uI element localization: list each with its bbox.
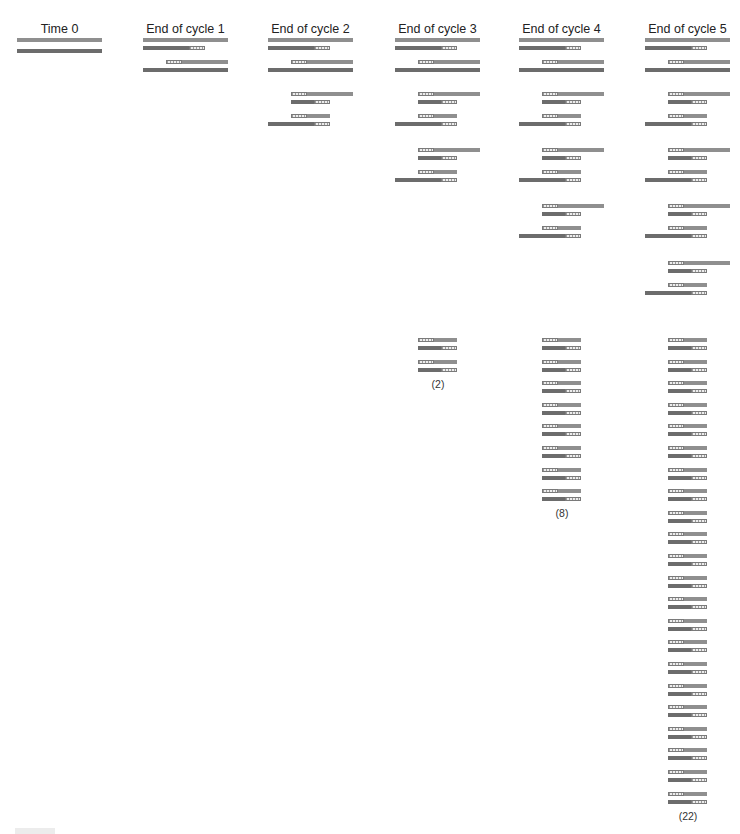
primer-segment	[668, 662, 684, 666]
dna-strand	[668, 170, 707, 174]
primer-segment	[691, 100, 707, 104]
dna-strand	[542, 148, 604, 152]
dna-strand	[291, 100, 330, 104]
dna-strand	[17, 49, 102, 53]
primer-segment	[565, 389, 581, 393]
primer-segment	[691, 519, 707, 523]
dna-strand	[645, 291, 707, 295]
primer-segment	[441, 368, 457, 372]
product-count: (2)	[418, 378, 458, 390]
dna-strand	[542, 114, 581, 118]
dna-strand	[668, 454, 707, 458]
primer-segment	[668, 204, 684, 208]
dna-strand	[542, 424, 581, 428]
primer-segment	[441, 100, 457, 104]
dna-strand	[542, 170, 581, 174]
dna-strand	[668, 446, 707, 450]
primer-segment	[418, 60, 434, 64]
primer-segment	[691, 269, 707, 273]
dna-strand	[542, 204, 604, 208]
primer-segment	[542, 60, 558, 64]
dna-strand	[418, 170, 457, 174]
primer-segment	[691, 212, 707, 216]
primer-segment	[668, 619, 684, 623]
dna-strand	[668, 269, 707, 273]
dna-strand	[395, 68, 480, 72]
primer-segment	[668, 597, 684, 601]
dna-strand	[668, 92, 730, 96]
primer-segment	[565, 178, 581, 182]
dna-strand	[268, 38, 353, 42]
dna-strand	[542, 454, 581, 458]
dna-strand	[668, 519, 707, 523]
dna-strand	[668, 497, 707, 501]
primer-segment	[691, 432, 707, 436]
dna-strand	[418, 368, 457, 372]
dna-strand	[418, 156, 457, 160]
primer-segment	[668, 576, 684, 580]
primer-segment	[668, 489, 684, 493]
primer-segment	[418, 170, 434, 174]
dna-strand	[668, 640, 707, 644]
dna-strand	[668, 584, 707, 588]
dna-strand	[668, 261, 730, 265]
primer-segment	[542, 92, 558, 96]
primer-segment	[565, 46, 581, 50]
primer-segment	[418, 148, 434, 152]
dna-strand	[668, 684, 707, 688]
primer-segment	[668, 381, 684, 385]
dna-strand	[542, 403, 581, 407]
dna-strand	[668, 605, 707, 609]
primer-segment	[291, 60, 307, 64]
primer-segment	[418, 360, 434, 364]
primer-segment	[542, 338, 558, 342]
dna-strand	[542, 432, 581, 436]
primer-segment	[691, 122, 707, 126]
primer-segment	[668, 360, 684, 364]
dna-strand	[418, 360, 457, 364]
primer-segment	[691, 540, 707, 544]
dna-strand	[668, 576, 707, 580]
dna-strand	[668, 389, 707, 393]
dna-strand	[668, 468, 707, 472]
dna-strand	[143, 68, 228, 72]
dna-strand	[668, 156, 707, 160]
page-edge-mark	[15, 828, 55, 834]
dna-strand	[645, 234, 707, 238]
primer-segment	[418, 338, 434, 342]
dna-strand	[542, 381, 581, 385]
primer-segment	[668, 424, 684, 428]
dna-strand	[645, 38, 730, 42]
primer-segment	[565, 476, 581, 480]
dna-strand	[395, 178, 457, 182]
dna-strand	[668, 338, 707, 342]
primer-segment	[691, 454, 707, 458]
primer-segment	[441, 46, 457, 50]
dna-strand	[668, 662, 707, 666]
primer-segment	[668, 283, 684, 287]
primer-segment	[668, 148, 684, 152]
primer-segment	[691, 389, 707, 393]
dna-strand	[542, 497, 581, 501]
primer-segment	[565, 454, 581, 458]
primer-segment	[565, 212, 581, 216]
dna-strand	[668, 792, 707, 796]
dna-strand	[542, 156, 581, 160]
dna-strand	[668, 727, 707, 731]
dna-strand	[17, 38, 102, 42]
dna-strand	[668, 692, 707, 696]
dna-strand	[668, 368, 707, 372]
dna-strand	[668, 554, 707, 558]
primer-segment	[691, 234, 707, 238]
primer-segment	[668, 727, 684, 731]
dna-strand	[668, 713, 707, 717]
dna-strand	[668, 597, 707, 601]
primer-segment	[542, 403, 558, 407]
dna-strand	[418, 100, 457, 104]
dna-strand	[418, 148, 480, 152]
dna-strand	[668, 748, 707, 752]
dna-strand	[668, 800, 707, 804]
dna-strand	[395, 46, 457, 50]
primer-segment	[418, 114, 434, 118]
dna-strand	[143, 38, 228, 42]
